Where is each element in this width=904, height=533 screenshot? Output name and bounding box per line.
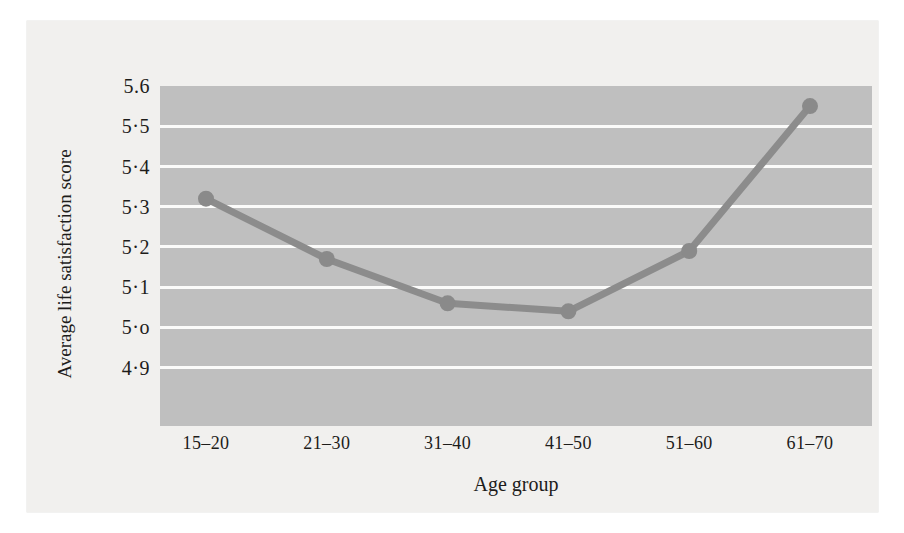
y-axis-tick-label: 5·3 [88, 195, 150, 218]
series-line [206, 106, 810, 311]
y-axis-tick-label: 5.6 [88, 75, 150, 98]
y-axis-tick-label: 4·9 [88, 356, 150, 379]
data-point-marker [440, 295, 456, 311]
y-axis-tick-label: 5·4 [88, 155, 150, 178]
x-axis-title: Age group [160, 473, 872, 496]
y-axis-tick-labels: 5.6 5·5 5·4 5·3 5·2 5·1 5·o 4·9 [82, 21, 150, 533]
x-axis-tick-labels: 15–20 21–30 31–40 41–50 51–60 61–70 [160, 433, 872, 461]
x-axis-tick-label: 31–40 [388, 433, 508, 454]
y-axis-title: Average life satisfaction score [54, 104, 76, 424]
plot-area [160, 86, 872, 426]
data-point-marker [319, 251, 335, 267]
figure-card: Average life satisfaction score 5.6 5·5 … [27, 21, 878, 512]
data-point-marker [681, 243, 697, 259]
y-axis-tick-label: 5·5 [88, 115, 150, 138]
figure-root: Average life satisfaction score 5.6 5·5 … [0, 0, 904, 533]
y-axis-tick-label: 5·o [88, 316, 150, 339]
x-axis-tick-label: 41–50 [508, 433, 628, 454]
data-point-marker [198, 191, 214, 207]
data-point-marker [560, 303, 576, 319]
y-axis-tick-label: 5·2 [88, 235, 150, 258]
x-axis-tick-label: 61–70 [750, 433, 870, 454]
series-line-chart [160, 86, 872, 426]
x-axis-tick-label: 21–30 [267, 433, 387, 454]
x-axis-tick-label: 51–60 [629, 433, 749, 454]
x-axis-tick-label: 15–20 [146, 433, 266, 454]
data-point-marker [802, 98, 818, 114]
y-axis-tick-label: 5·1 [88, 276, 150, 299]
